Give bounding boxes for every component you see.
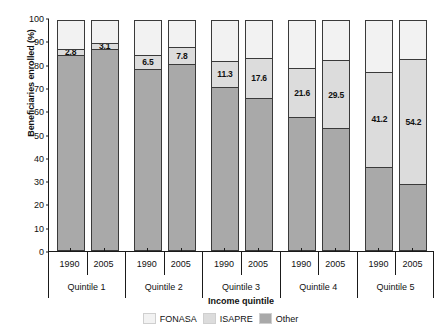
y-tick-label: 60 xyxy=(18,107,49,117)
legend-item[interactable]: FONASA xyxy=(143,313,197,324)
x-axis-year-label: 2005 xyxy=(391,252,433,275)
bar-segment-other[interactable] xyxy=(91,20,119,44)
x-axis-group-separator xyxy=(202,275,203,298)
x-axis-group-separator xyxy=(433,275,434,298)
x-axis-group-separator xyxy=(433,252,434,275)
x-axis-year-label: 2005 xyxy=(237,252,279,275)
x-axis-group-label: Quintile 5 xyxy=(357,275,434,298)
chart-legend: FONASAISAPREOther xyxy=(0,313,441,324)
bars-container: 2.83.16.57.811.317.621.629.541.254.2 xyxy=(49,19,434,251)
plot-area: 0102030405060708090100 2.83.16.57.811.31… xyxy=(48,19,434,252)
bar-segment-fonasa[interactable] xyxy=(399,184,427,251)
x-tick-mark xyxy=(378,248,379,252)
x-tick-mark xyxy=(104,248,105,252)
stacked-bar[interactable]: 41.2 xyxy=(365,18,393,251)
y-tick-label: 50 xyxy=(18,131,49,141)
x-axis-group-label: Quintile 2 xyxy=(125,275,202,298)
legend-label: FONASA xyxy=(160,314,197,324)
bar-segment-isapre[interactable]: 11.3 xyxy=(211,61,239,87)
y-tick-label: 40 xyxy=(18,154,49,164)
y-tick-label: 100 xyxy=(18,14,49,24)
x-axis-group-label: Quintile 1 xyxy=(48,275,125,298)
x-axis-group-separator xyxy=(48,252,49,275)
bar-segment-isapre[interactable]: 41.2 xyxy=(365,72,393,168)
x-axis-year-label: 2005 xyxy=(83,252,125,275)
bar-value-label: 6.5 xyxy=(142,58,153,67)
bar-segment-fonasa[interactable] xyxy=(245,98,273,251)
legend-item[interactable]: Other xyxy=(259,313,299,324)
x-axis-quintile-row: Quintile 1Quintile 2Quintile 3Quintile 4… xyxy=(48,275,434,298)
bar-segment-fonasa[interactable] xyxy=(288,117,316,251)
bar-value-label: 11.3 xyxy=(217,70,232,79)
bar-segment-other[interactable] xyxy=(365,20,393,73)
x-tick-mark xyxy=(224,248,225,252)
x-tick-mark xyxy=(301,248,302,252)
bar-value-label: 17.6 xyxy=(251,74,267,83)
stacked-bar[interactable]: 7.8 xyxy=(168,18,196,251)
stacked-bar[interactable]: 6.5 xyxy=(134,18,162,251)
bar-value-label: 54.2 xyxy=(406,118,422,127)
bar-segment-isapre[interactable]: 17.6 xyxy=(245,58,273,99)
x-axis: 1990200519902005199020051990200519902005… xyxy=(48,252,434,298)
y-tick-label: 80 xyxy=(18,61,49,71)
stacked-bar-chart: Beneficiaries enrolled (%) 0102030405060… xyxy=(0,0,441,330)
legend-item[interactable]: ISAPRE xyxy=(203,313,253,324)
y-tick-label: 20 xyxy=(18,200,49,210)
legend-swatch-icon xyxy=(143,313,156,324)
stacked-bar[interactable]: 29.5 xyxy=(322,18,350,251)
x-tick-mark xyxy=(147,248,148,252)
bar-segment-fonasa[interactable] xyxy=(211,87,239,251)
bar-segment-fonasa[interactable] xyxy=(91,49,119,251)
bar-segment-isapre[interactable]: 6.5 xyxy=(134,55,162,70)
y-tick-label: 10 xyxy=(18,224,49,234)
stacked-bar[interactable]: 21.6 xyxy=(288,18,316,251)
bar-segment-isapre[interactable]: 54.2 xyxy=(399,59,427,185)
bar-value-label: 21.6 xyxy=(294,89,310,98)
bar-segment-other[interactable] xyxy=(322,20,350,61)
y-tick-label: 90 xyxy=(18,37,49,47)
stacked-bar[interactable]: 3.1 xyxy=(91,18,119,251)
stacked-bar[interactable]: 54.2 xyxy=(399,18,427,251)
y-tick-label: 0 xyxy=(18,247,49,257)
x-axis-group-label: Quintile 3 xyxy=(202,275,279,298)
bar-value-label: 7.8 xyxy=(176,52,187,61)
bar-segment-fonasa[interactable] xyxy=(57,55,85,251)
bar-segment-isapre[interactable]: 7.8 xyxy=(168,47,196,65)
bar-segment-other[interactable] xyxy=(245,20,273,59)
bar-value-label: 41.2 xyxy=(372,115,388,124)
bar-segment-other[interactable] xyxy=(57,20,85,50)
bar-segment-other[interactable] xyxy=(211,20,239,62)
stacked-bar[interactable]: 2.8 xyxy=(57,18,85,251)
x-axis-separator xyxy=(241,252,242,275)
x-axis-group-separator xyxy=(125,252,126,275)
stacked-bar[interactable]: 17.6 xyxy=(245,18,273,251)
bar-segment-fonasa[interactable] xyxy=(365,167,393,251)
bar-segment-other[interactable] xyxy=(134,20,162,56)
bar-value-label: 29.5 xyxy=(328,91,344,100)
x-axis-separator xyxy=(87,252,88,275)
x-axis-group-separator xyxy=(125,275,126,298)
x-axis-separator xyxy=(164,252,165,275)
bar-segment-fonasa[interactable] xyxy=(134,69,162,251)
x-tick-mark xyxy=(412,248,413,252)
bar-segment-isapre[interactable]: 29.5 xyxy=(322,60,350,129)
bar-segment-fonasa[interactable] xyxy=(168,64,196,251)
x-tick-mark xyxy=(181,248,182,252)
bar-segment-fonasa[interactable] xyxy=(322,128,350,251)
x-axis-separator xyxy=(395,252,396,275)
x-axis-group-separator xyxy=(48,275,49,298)
x-tick-mark xyxy=(258,248,259,252)
bar-segment-other[interactable] xyxy=(399,20,427,60)
bar-segment-other[interactable] xyxy=(168,20,196,48)
x-axis-separator xyxy=(318,252,319,275)
bar-segment-isapre[interactable]: 21.6 xyxy=(288,68,316,118)
x-axis-year-label: 2005 xyxy=(160,252,202,275)
bar-segment-other[interactable] xyxy=(288,20,316,69)
x-tick-mark xyxy=(335,248,336,252)
y-tick-label: 70 xyxy=(18,84,49,94)
stacked-bar[interactable]: 11.3 xyxy=(211,18,239,251)
x-axis-group-separator xyxy=(357,252,358,275)
x-axis-group-separator xyxy=(280,275,281,298)
bar-segment-isapre[interactable]: 3.1 xyxy=(91,43,119,50)
x-tick-mark xyxy=(70,248,71,252)
